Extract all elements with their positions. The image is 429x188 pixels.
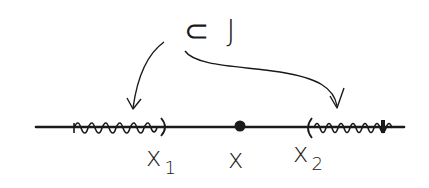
point-x-symbol: x [228, 144, 243, 174]
point-x1-label: x1 [146, 144, 176, 170]
point-x2-symbol: x [293, 138, 308, 168]
point-x2-subscript: 2 [311, 153, 322, 174]
right-interval-end-mark [381, 120, 385, 133]
subset-of-j-label: ⊂ J [184, 16, 239, 46]
right-interval [308, 118, 392, 138]
point-x1-subscript: 1 [164, 157, 175, 178]
point-x-dot [235, 121, 246, 132]
point-x1-symbol: x [146, 142, 161, 172]
arrow-to-right-interval [185, 51, 344, 108]
point-x2-label: x2 [293, 140, 323, 166]
point-x-label: x [228, 146, 243, 172]
arrow-to-left-interval [127, 42, 164, 109]
